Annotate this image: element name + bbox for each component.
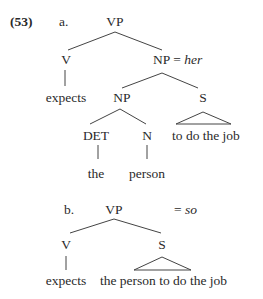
node-det: DET	[83, 129, 109, 143]
pronoun-her: her	[184, 52, 202, 67]
branch-vp-v	[68, 32, 115, 50]
node-b-vp: VP	[105, 203, 122, 217]
node-b-s: S	[158, 238, 166, 252]
example-number: (53)	[10, 15, 33, 29]
word-the: the	[88, 167, 105, 181]
tree-branches	[0, 0, 263, 299]
branch-vp-np	[115, 32, 162, 50]
triangle-s-a	[176, 112, 231, 124]
pro-form-so: so	[185, 202, 197, 217]
s-content-b: the person to do the job	[100, 274, 227, 288]
equals-sign: =	[173, 52, 181, 67]
branch-np-n	[120, 109, 146, 124]
branch-b-vp-v	[70, 219, 114, 233]
node-np-inner: NP	[113, 91, 130, 105]
equals-sign-b: =	[174, 202, 182, 217]
branch-np-det	[90, 109, 120, 124]
branch-b-vp-s	[114, 219, 161, 233]
s-content-a: to do the job	[172, 129, 240, 143]
node-v: V	[61, 53, 71, 67]
branch-np-np	[122, 73, 162, 88]
node-np-her: NP = her	[153, 53, 202, 67]
node-s: S	[199, 91, 207, 105]
subexample-label-a: a.	[59, 15, 68, 29]
node-b-so: = so	[174, 203, 197, 217]
word-expects: expects	[46, 91, 86, 105]
node-n: N	[142, 129, 152, 143]
branch-np-s	[162, 73, 198, 88]
subexample-label-b: b.	[64, 203, 74, 217]
word-person: person	[129, 167, 165, 181]
triangle-s-b	[134, 257, 191, 270]
word-b-expects: expects	[46, 274, 86, 288]
node-b-v: V	[61, 238, 71, 252]
node-np-label: NP	[153, 52, 170, 67]
node-vp: VP	[106, 15, 123, 29]
